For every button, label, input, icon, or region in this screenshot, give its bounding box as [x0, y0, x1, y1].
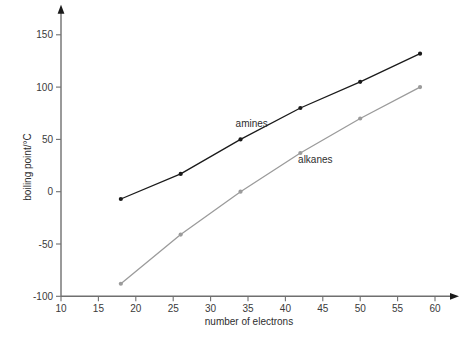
axes — [58, 5, 459, 300]
chart-container: 1015202530354045505560 -100-50050100150 … — [0, 0, 472, 341]
y-axis-arrow — [58, 5, 65, 14]
data-point — [119, 282, 123, 286]
y-tick-label: 100 — [36, 82, 53, 93]
series-alkanes — [119, 85, 422, 286]
data-series-group — [119, 52, 422, 286]
y-tick-label: -50 — [39, 239, 54, 250]
boiling-point-line-chart: 1015202530354045505560 -100-50050100150 … — [0, 0, 472, 341]
x-axis-ticks — [61, 296, 435, 301]
x-tick-label: 55 — [392, 303, 404, 314]
series-line-alkanes — [121, 87, 420, 284]
x-axis-title: number of electrons — [205, 316, 293, 327]
data-point — [119, 197, 123, 201]
data-point — [238, 137, 242, 141]
data-point — [418, 52, 422, 56]
x-tick-label: 10 — [55, 303, 67, 314]
series-line-amines — [121, 54, 420, 199]
x-axis-arrow — [450, 293, 459, 300]
x-tick-label: 20 — [130, 303, 142, 314]
data-point — [238, 190, 242, 194]
data-point — [179, 172, 183, 176]
y-axis-title: boiling point/°C — [22, 133, 33, 200]
x-tick-label: 15 — [93, 303, 105, 314]
x-tick-label: 45 — [317, 303, 329, 314]
x-tick-label: 60 — [429, 303, 441, 314]
y-tick-label: 0 — [47, 186, 53, 197]
x-tick-label: 25 — [168, 303, 180, 314]
series-label-amines: amines — [236, 118, 268, 129]
y-axis-ticks — [56, 35, 61, 297]
x-tick-label: 35 — [242, 303, 254, 314]
data-point — [358, 80, 362, 84]
series-amines — [119, 52, 422, 202]
data-point — [179, 232, 183, 236]
y-tick-label: 50 — [42, 134, 54, 145]
x-tick-label: 40 — [280, 303, 292, 314]
x-axis-tick-labels: 1015202530354045505560 — [55, 303, 441, 314]
y-axis-tick-labels: -100-50050100150 — [33, 29, 53, 302]
y-tick-label: 150 — [36, 29, 53, 40]
y-tick-label: -100 — [33, 291, 53, 302]
data-point — [298, 106, 302, 110]
series-label-alkanes: alkanes — [298, 154, 332, 165]
series-annotations: aminesalkanes — [236, 118, 333, 166]
x-tick-label: 50 — [355, 303, 367, 314]
data-point — [358, 116, 362, 120]
data-point — [418, 85, 422, 89]
x-tick-label: 30 — [205, 303, 217, 314]
